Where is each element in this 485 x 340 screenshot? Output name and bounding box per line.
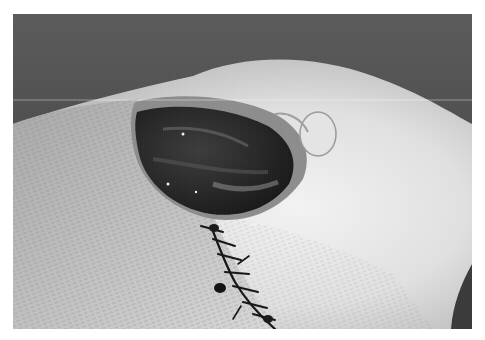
photo-illustration [13,14,472,329]
wound-photograph: Grayscale photograph of an open wound ca… [13,14,472,329]
